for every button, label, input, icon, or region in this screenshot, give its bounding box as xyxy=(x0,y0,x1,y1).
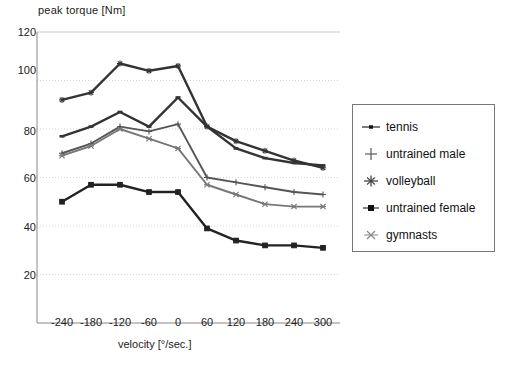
legend-item-untrained-male[interactable]: untrained male xyxy=(353,140,494,167)
chart-figure: peak torque [Nm] velocity [°/sec.] 120 1… xyxy=(0,0,505,374)
legend-label: untrained male xyxy=(386,147,465,161)
y-tick-label: 100 xyxy=(6,64,36,76)
y-tick-label: 120 xyxy=(6,26,36,38)
x-axis-title: velocity [°/sec.] xyxy=(118,338,191,350)
dash-marker-icon xyxy=(361,120,381,134)
legend-item-tennis[interactable]: tennis xyxy=(353,113,494,140)
star-marker-icon xyxy=(361,228,381,242)
y-tick-label: 40 xyxy=(6,221,36,233)
y-tick-label: 20 xyxy=(6,269,36,281)
plus-marker-icon xyxy=(361,147,381,161)
square-marker-icon xyxy=(361,201,381,215)
x-tick-label: 300 xyxy=(303,316,343,328)
series-tennis xyxy=(60,97,326,165)
legend-item-volleyball[interactable]: volleyball xyxy=(353,167,494,194)
legend-item-gymnasts[interactable]: gymnasts xyxy=(353,221,494,248)
legend-label: volleyball xyxy=(386,174,435,188)
series-untrained-female xyxy=(60,182,326,250)
legend-label: gymnasts xyxy=(386,228,437,242)
series-untrained-male xyxy=(59,121,326,197)
y-tick-label: 60 xyxy=(6,172,36,184)
series-volleyball xyxy=(59,61,326,171)
asterisk-marker-icon xyxy=(361,174,381,188)
legend-label: tennis xyxy=(386,120,418,134)
series-layer xyxy=(59,61,326,251)
legend-item-untrained-female[interactable]: untrained female xyxy=(353,194,494,221)
legend-label: untrained female xyxy=(386,201,475,215)
y-tick-label: 80 xyxy=(6,125,36,137)
legend: tennis untrained male volleyball untrain… xyxy=(352,104,495,252)
y-axis-title: peak torque [Nm] xyxy=(38,4,126,16)
